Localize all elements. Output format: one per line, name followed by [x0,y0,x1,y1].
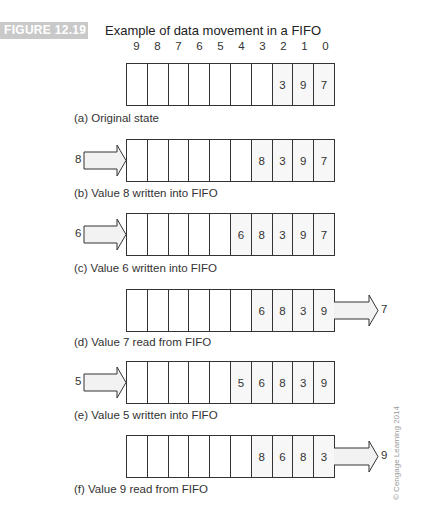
register-cell-bit-1: 3 [293,290,314,331]
register-cell-bit-8 [148,290,169,331]
register-cell-bit-6 [189,436,210,477]
register-cell-bit-8 [148,362,169,403]
register-cell-bit-1: 9 [293,64,314,105]
register-cell-bit-0: 7 [314,214,334,255]
register-cell-bit-7 [169,362,190,403]
register-cell-bit-4 [231,64,252,105]
output-value: 9 [381,449,387,461]
fifo-register-d: 6839 [126,289,335,332]
register-cell-bit-2: 3 [273,214,294,255]
figure-title: Example of data movement in a FIFO [105,22,321,39]
bit-label: 3 [252,40,273,56]
register-cell-bit-7 [169,140,190,181]
figure-label: FIGURE 12.19 [0,22,88,39]
register-cell-bit-3: 6 [252,290,273,331]
register-cell-bit-9 [127,436,148,477]
register-cell-bit-5 [210,290,231,331]
fifo-register-b: 8397 [126,139,335,182]
register-cell-bit-1: 3 [293,362,314,403]
register-cell-bit-5 [210,436,231,477]
register-cell-bit-1: 9 [293,140,314,181]
register-cell-bit-0: 9 [314,362,334,403]
register-cell-bit-9 [127,64,148,105]
bit-label: 8 [147,40,168,56]
register-cell-bit-9 [127,362,148,403]
register-cell-bit-9 [127,214,148,255]
register-cell-bit-3: 8 [252,214,273,255]
output-value: 7 [381,303,387,315]
register-cell-bit-2: 6 [273,436,294,477]
input-arrow-icon [83,365,127,401]
output-arrow-icon [334,293,380,329]
register-cell-bit-6 [189,64,210,105]
register-cell-bit-6 [189,140,210,181]
fifo-register-f: 8683 [126,435,335,478]
state-caption-e: (e) Value 5 written into FIFO [74,409,218,421]
register-cell-bit-0: 7 [314,64,334,105]
state-caption-b: (b) Value 8 written into FIFO [74,187,218,199]
register-cell-bit-0: 7 [314,140,334,181]
fifo-register-a: 397 [126,63,335,106]
register-cell-bit-8 [148,214,169,255]
register-cell-bit-5 [210,214,231,255]
bit-label: 6 [189,40,210,56]
register-cell-bit-4 [231,140,252,181]
bit-label: 2 [273,40,294,56]
register-cell-bit-9 [127,290,148,331]
bit-label: 9 [126,40,147,56]
register-cell-bit-3: 8 [252,436,273,477]
register-cell-bit-2: 8 [273,290,294,331]
register-cell-bit-4: 6 [231,214,252,255]
register-cell-bit-7 [169,214,190,255]
register-cell-bit-2: 8 [273,362,294,403]
state-caption-f: (f) Value 9 read from FIFO [74,483,208,495]
output-arrow-icon [334,439,380,475]
state-caption-d: (d) Value 7 read from FIFO [74,336,211,348]
bit-label: 1 [294,40,315,56]
register-cell-bit-4 [231,436,252,477]
register-cell-bit-3: 8 [252,140,273,181]
register-cell-bit-9 [127,140,148,181]
register-cell-bit-1: 9 [293,214,314,255]
register-cell-bit-5 [210,140,231,181]
register-cell-bit-1: 8 [293,436,314,477]
state-caption-c: (c) Value 6 written into FIFO [74,262,217,274]
register-cell-bit-3: 6 [252,362,273,403]
register-cell-bit-3 [252,64,273,105]
input-arrow-icon [83,217,127,253]
register-cell-bit-8 [148,64,169,105]
register-cell-bit-7 [169,436,190,477]
input-value: 8 [75,153,81,165]
register-cell-bit-7 [169,64,190,105]
register-cell-bit-6 [189,290,210,331]
register-cell-bit-6 [189,362,210,403]
input-value: 5 [75,375,81,387]
register-cell-bit-0: 9 [314,290,334,331]
register-cell-bit-6 [189,214,210,255]
register-cell-bit-8 [148,140,169,181]
bit-label: 4 [231,40,252,56]
register-cell-bit-5 [210,64,231,105]
fifo-register-c: 68397 [126,213,335,256]
register-cell-bit-4: 5 [231,362,252,403]
bit-label: 5 [210,40,231,56]
register-cell-bit-0: 3 [314,436,334,477]
fifo-register-e: 56839 [126,361,335,404]
register-cell-bit-4 [231,290,252,331]
register-cell-bit-2: 3 [273,140,294,181]
register-cell-bit-5 [210,362,231,403]
register-cell-bit-8 [148,436,169,477]
input-value: 6 [75,227,81,239]
bit-label: 7 [168,40,189,56]
register-cell-bit-7 [169,290,190,331]
register-cell-bit-2: 3 [273,64,294,105]
input-arrow-icon [83,143,127,179]
bit-position-header: 9 8 7 6 5 4 3 2 1 0 [126,40,336,56]
copyright-watermark: © Cengage Learning 2014 [392,406,401,500]
state-caption-a: (a) Original state [74,112,159,124]
bit-label: 0 [315,40,336,56]
